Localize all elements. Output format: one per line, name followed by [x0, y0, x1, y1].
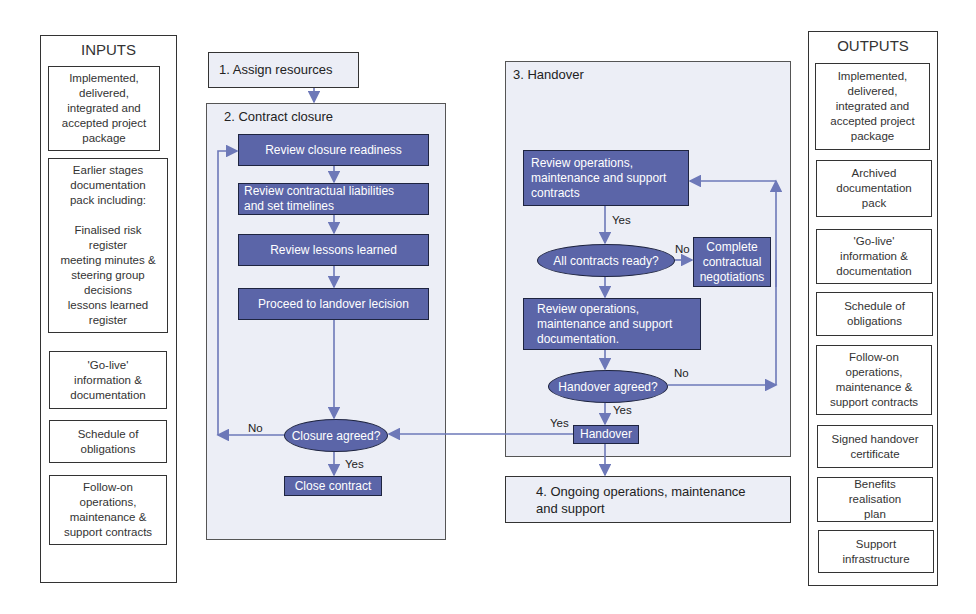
review-closure-readiness: Review closure readiness — [238, 134, 429, 166]
handover-yes-label-left: Yes — [550, 417, 569, 429]
closure-no-label: No — [248, 422, 263, 434]
output-item: Archived documentation pack — [816, 160, 932, 217]
input-item: Earlier stages documentation pack includ… — [48, 158, 168, 333]
step-assign-resources: 1. Assign resources — [208, 52, 359, 88]
inputs-title: INPUTS — [41, 41, 176, 58]
review-ops-contracts: Review operations, maintenance and suppo… — [523, 150, 689, 206]
output-item: Signed handover certificate — [817, 425, 933, 468]
output-item: Support infrastructure — [818, 530, 934, 573]
review-lessons-learned: Review lessons learned — [238, 234, 429, 266]
proceed-to-handover-decision: Proceed to landover lecision — [238, 288, 429, 320]
step-ongoing-operations: 4. Ongoing operations, maintenance and s… — [505, 476, 791, 523]
close-contract: Close contract — [284, 476, 382, 496]
handover-no-label: No — [674, 367, 689, 379]
review-ops-documentation: Review operations, maintenance and suppo… — [523, 298, 701, 350]
input-item: Implemented, delivered, integrated and a… — [48, 66, 160, 151]
contracts-yes-label: Yes — [612, 214, 631, 226]
closure-yes-label: Yes — [345, 458, 364, 470]
output-item: Follow-on operations, maintenance & supp… — [816, 345, 932, 415]
contracts-no-label: No — [675, 243, 690, 255]
handover-agreed-decision: Handover agreed? — [548, 370, 668, 403]
output-item: 'Go-live' information & documentation — [816, 229, 932, 284]
handover-box: Handover — [573, 425, 639, 444]
input-item: Schedule of obligations — [49, 420, 167, 463]
handover-title: 3. Handover — [513, 67, 790, 82]
contract-closure-title: 2. Contract closure — [224, 109, 445, 124]
all-contracts-ready-decision: All contracts ready? — [537, 244, 675, 277]
input-item: 'Go-live' information & documentation — [49, 351, 167, 409]
output-item: Implemented, delivered, integrated and a… — [815, 63, 930, 150]
review-contractual-liabilities: Review contractual liabilities and set t… — [238, 183, 429, 215]
outputs-title: OUTPUTS — [809, 37, 937, 54]
input-item: Follow-on operations, maintenance & supp… — [49, 475, 167, 545]
contract-closure-panel: 2. Contract closure — [206, 103, 446, 540]
complete-contractual-negotiations: Complete contractual negotiations — [693, 237, 771, 287]
output-item: Benefits realisation plan — [817, 477, 933, 522]
output-item: Schedule of obligations — [816, 292, 933, 336]
closure-agreed-decision: Closure agreed? — [284, 419, 388, 452]
handover-yes-label: Yes — [613, 404, 632, 416]
